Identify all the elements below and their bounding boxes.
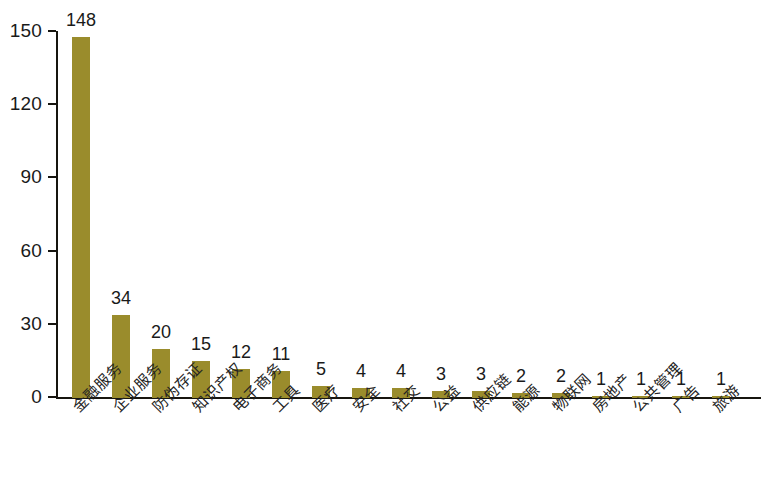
y-axis-tick-label: 0 [0,387,42,406]
bar-value-label: 34 [91,289,151,307]
x-axis-category-label: 公益 [427,379,464,416]
y-axis-tick [48,30,56,32]
bar [72,37,90,398]
y-axis-tick [48,103,56,105]
x-axis-category-label: 社交 [387,379,424,416]
x-axis-category-label: 医疗 [307,379,344,416]
y-axis-tick [48,396,56,398]
y-axis-tick [48,323,56,325]
y-axis-tick-label: 90 [0,167,42,186]
bar-value-label: 148 [51,11,111,29]
y-axis-line [56,31,58,399]
bar-value-label: 1 [691,370,751,388]
y-axis-tick-label: 120 [0,94,42,113]
y-axis-tick [48,176,56,178]
x-axis-category-label: 安全 [347,379,384,416]
plot-area: 0306090120150 148342015121154433221111 金… [0,0,775,479]
y-axis-tick [48,250,56,252]
bar-chart: 0306090120150 148342015121154433221111 金… [0,0,775,479]
y-axis-tick-label: 60 [0,241,42,260]
y-axis-tick-label: 150 [0,21,42,40]
y-axis-tick-label: 30 [0,314,42,333]
